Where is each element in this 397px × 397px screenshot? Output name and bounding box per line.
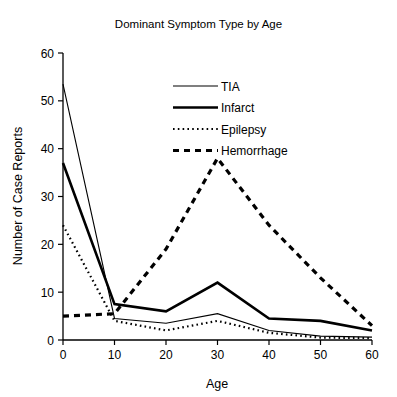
x-axis-label: Age bbox=[206, 377, 228, 391]
legend-label-epilepsy: Epilepsy bbox=[221, 123, 266, 137]
y-tick-label: 10 bbox=[41, 286, 55, 300]
chart-figure: Dominant Symptom Type by Age Number of C… bbox=[0, 0, 397, 397]
legend-label-hemorrhage: Hemorrhage bbox=[221, 144, 288, 158]
chart-title: Dominant Symptom Type by Age bbox=[115, 18, 282, 30]
y-tick-label: 50 bbox=[41, 94, 55, 108]
x-tick-label: 60 bbox=[365, 348, 379, 362]
y-axis-label: Number of Case Reports bbox=[11, 127, 25, 265]
symptom-type-line-chart: Dominant Symptom Type by Age Number of C… bbox=[0, 0, 397, 397]
chart-background bbox=[0, 0, 397, 397]
y-tick-label: 0 bbox=[47, 334, 54, 348]
x-tick-label: 40 bbox=[262, 348, 276, 362]
y-tick-label: 30 bbox=[41, 190, 55, 204]
y-tick-label: 40 bbox=[41, 142, 55, 156]
x-tick-label: 50 bbox=[314, 348, 328, 362]
y-tick-label: 60 bbox=[41, 47, 55, 61]
legend-label-tia: TIA bbox=[221, 80, 240, 94]
x-tick-label: 0 bbox=[60, 348, 67, 362]
y-tick-label: 20 bbox=[41, 238, 55, 252]
legend-label-infarct: Infarct bbox=[221, 101, 255, 115]
x-tick-label: 10 bbox=[108, 348, 122, 362]
x-tick-label: 30 bbox=[211, 348, 225, 362]
x-tick-label: 20 bbox=[159, 348, 173, 362]
